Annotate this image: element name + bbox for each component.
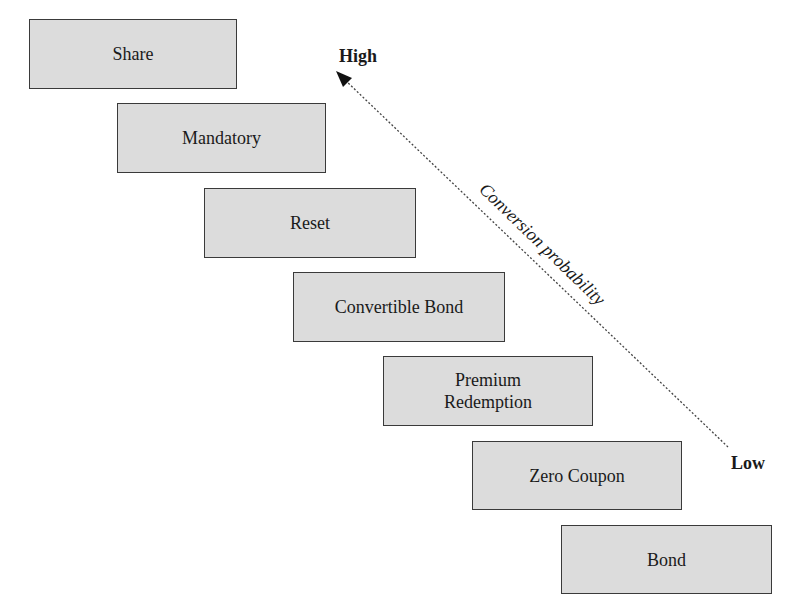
box-bond: Bond (561, 525, 772, 594)
box-share: Share (29, 19, 237, 89)
box-label: Share (113, 43, 154, 65)
box-label: Bond (647, 549, 686, 571)
box-convertible-bond: Convertible Bond (293, 272, 505, 342)
box-label: Convertible Bond (335, 296, 464, 318)
box-zero-coupon: Zero Coupon (472, 441, 682, 510)
box-label: Zero Coupon (529, 465, 624, 487)
box-label: Reset (290, 212, 330, 234)
box-label: Mandatory (182, 127, 261, 149)
box-premium-redemption: Premium Redemption (383, 356, 593, 426)
box-reset: Reset (204, 188, 416, 258)
arrowhead-icon (336, 71, 352, 87)
box-label: Premium Redemption (444, 369, 532, 413)
high-label: High (339, 46, 377, 67)
low-label: Low (731, 453, 765, 474)
box-mandatory: Mandatory (117, 103, 326, 173)
